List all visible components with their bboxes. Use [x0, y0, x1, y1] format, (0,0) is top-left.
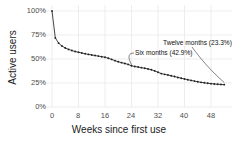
y-axis-title: Active users: [7, 8, 18, 108]
x-axis-title: Weeks since first use: [0, 124, 238, 135]
annotation-twelve-months: Twelve months (23.3%): [163, 39, 232, 47]
y-tick-label-100: 100%: [20, 7, 46, 15]
y-tick-label-50: 50%: [20, 55, 46, 63]
x-tick-label-24: 24: [127, 111, 135, 120]
y-axis-tick-labels: 100% 75% 50% 25% 0%: [16, 0, 46, 141]
x-tick-label-32: 32: [154, 111, 162, 120]
x-tick-label-0: 0: [50, 111, 54, 120]
x-tick-label-8: 8: [76, 111, 80, 120]
y-tick-label-75: 75%: [20, 31, 46, 39]
data-series-active-users: [51, 10, 225, 86]
y-tick-label-0: 0%: [20, 103, 46, 111]
x-tick-label-40: 40: [180, 111, 188, 120]
annotation-six-months: Six months (42.9%): [135, 49, 193, 57]
x-tick-label-48: 48: [207, 111, 215, 120]
retention-curve-chart: 100% 75% 50% 25% 0% 0 8 16 24 32 40 48 W…: [0, 0, 238, 141]
x-tick-label-16: 16: [101, 111, 109, 120]
y-tick-label-25: 25%: [20, 79, 46, 87]
